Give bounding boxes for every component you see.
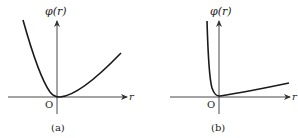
origin-label-b: O	[207, 99, 215, 110]
origin-label-a: O	[45, 99, 53, 110]
y-label-b: φ(r)	[210, 5, 232, 18]
caption-b: (b)	[211, 122, 225, 133]
y-label-a: φ(r)	[45, 5, 67, 18]
curve-a	[23, 20, 121, 97]
x-label-a: r	[129, 91, 135, 102]
panel-a: φ(r) r O (a)	[8, 5, 135, 133]
potential-figure: φ(r) r O (a) φ(r) r O (b)	[0, 0, 298, 138]
caption-a: (a)	[51, 122, 65, 133]
panel-b: φ(r) r O (b)	[170, 5, 298, 133]
x-label-b: r	[292, 91, 298, 102]
